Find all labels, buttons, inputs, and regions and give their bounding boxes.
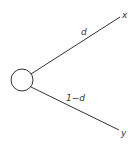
branch-upper-label: d (81, 27, 87, 37)
outcome-x-label: x (121, 10, 128, 20)
outcome-y-label: y (120, 128, 127, 138)
branch-lower-label: 1−d (66, 93, 85, 103)
tree-diagram: d x 1−d y (0, 0, 138, 144)
root-node (11, 69, 33, 91)
branch-upper (31, 17, 120, 74)
